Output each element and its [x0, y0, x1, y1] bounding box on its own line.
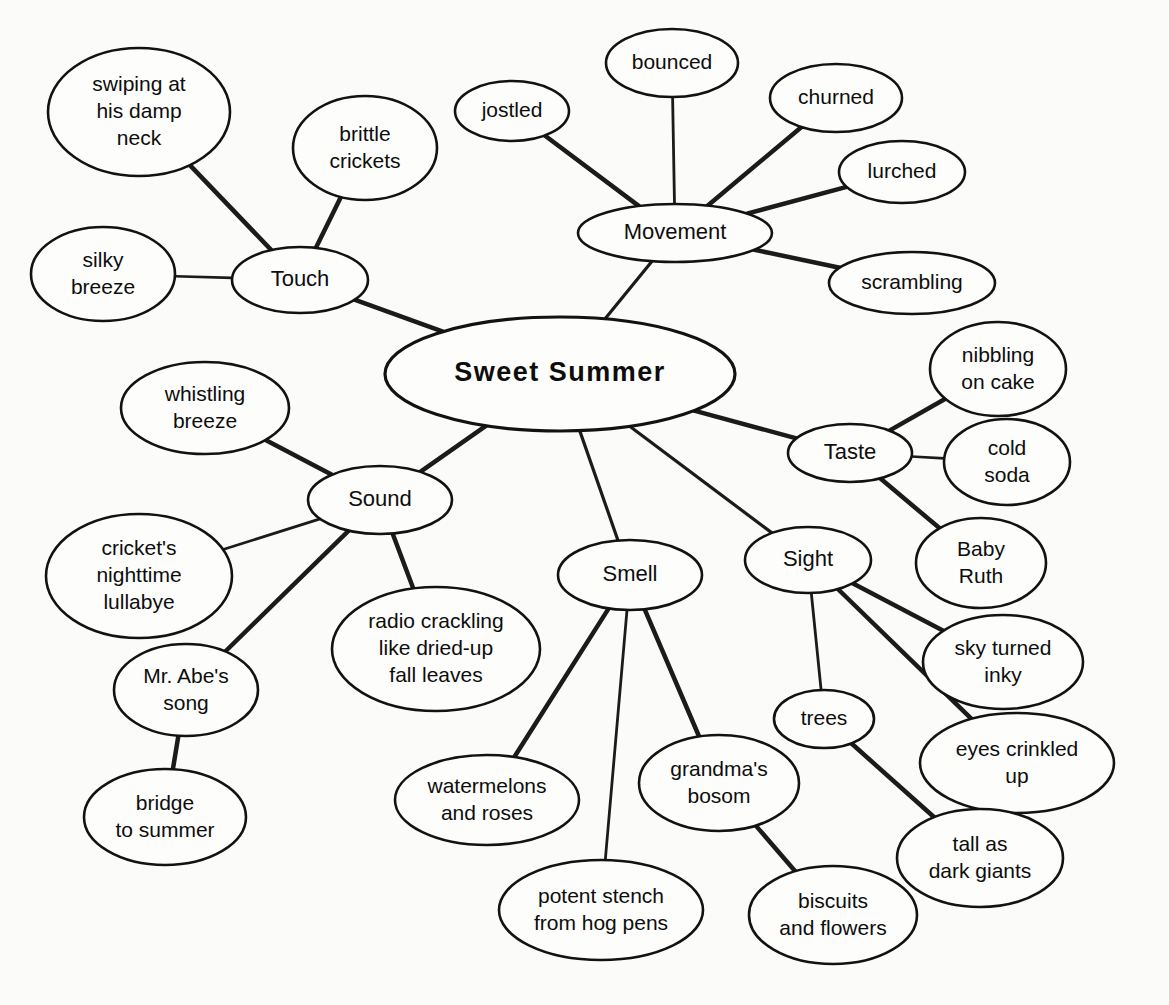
- node-label-jostled: jostled: [481, 98, 543, 121]
- node-label-line: like dried-up: [379, 636, 493, 659]
- edge-sight-to-trees: [811, 593, 821, 690]
- node-label-line: Touch: [271, 266, 330, 291]
- node-label-line: bosom: [687, 783, 750, 806]
- node-label-lurched: lurched: [868, 159, 937, 182]
- node-label-scrambling: scrambling: [861, 270, 963, 293]
- node-label-line: Taste: [824, 439, 877, 464]
- node-lurched[interactable]: lurched: [839, 141, 965, 203]
- edge-smell-to-grandmas: [645, 609, 699, 736]
- node-label-line: up: [1005, 763, 1028, 786]
- node-potentstench[interactable]: potent stenchfrom hog pens: [499, 860, 703, 960]
- node-sight[interactable]: Sight: [745, 527, 871, 593]
- node-scrambling[interactable]: scrambling: [829, 252, 995, 314]
- node-brittle[interactable]: brittlecrickets: [293, 96, 437, 200]
- node-taste[interactable]: Taste: [788, 424, 912, 482]
- node-label-trees: trees: [801, 706, 848, 729]
- node-label-line: sky turned: [955, 635, 1052, 658]
- node-skyturned[interactable]: sky turnedinky: [923, 615, 1083, 709]
- node-churned[interactable]: churned: [770, 64, 902, 132]
- node-label-line: inky: [984, 662, 1022, 685]
- node-label-line: neck: [117, 126, 162, 149]
- node-label-line: radio crackling: [368, 609, 503, 632]
- node-label-smell: Smell: [602, 561, 657, 586]
- node-label-line: Movement: [624, 219, 727, 244]
- node-label-line: bounced: [632, 50, 713, 73]
- node-nibbling[interactable]: nibblingon cake: [930, 322, 1066, 416]
- node-sound[interactable]: Sound: [308, 466, 452, 534]
- node-movement[interactable]: Movement: [578, 204, 772, 262]
- node-bounced[interactable]: bounced: [606, 29, 738, 97]
- edge-taste-to-babyruth: [880, 478, 940, 528]
- node-swiping[interactable]: swiping athis dampneck: [48, 48, 230, 176]
- node-label-line: cold: [988, 435, 1027, 458]
- node-jostled[interactable]: jostled: [455, 81, 569, 141]
- node-label-line: bridge: [136, 790, 194, 813]
- node-label-line: biscuits: [798, 888, 868, 911]
- node-label-line: breeze: [173, 408, 237, 431]
- node-label-line: crickets: [329, 148, 400, 171]
- node-label-line: on cake: [961, 369, 1035, 392]
- edge-root-to-movement: [605, 261, 652, 319]
- node-bridge[interactable]: bridgeto summer: [84, 769, 246, 865]
- node-babyruth[interactable]: BabyRuth: [916, 518, 1046, 608]
- node-radio[interactable]: radio cracklinglike dried-upfall leaves: [332, 587, 540, 711]
- mind-map-svg: Sweet SummerTouchswiping athis dampneckb…: [0, 0, 1169, 1005]
- node-silky[interactable]: silkybreeze: [31, 227, 175, 321]
- node-touch[interactable]: Touch: [232, 247, 368, 313]
- node-label-line: swiping at: [92, 72, 186, 95]
- node-coldsoda[interactable]: coldsoda: [944, 419, 1070, 505]
- node-root[interactable]: Sweet Summer: [385, 317, 735, 431]
- edge-grandmas-to-biscuits: [756, 826, 795, 872]
- node-label-sight: Sight: [783, 546, 833, 571]
- node-label-line: Mr. Abe's: [143, 663, 229, 686]
- node-label-line: brittle: [339, 121, 390, 144]
- node-label-line: song: [163, 690, 209, 713]
- mind-map-canvas: Sweet SummerTouchswiping athis dampneckb…: [0, 0, 1169, 1005]
- node-label-line: from hog pens: [534, 910, 668, 933]
- node-eyescrinkled[interactable]: eyes crinkledup: [920, 713, 1114, 813]
- node-label-line: tall as: [953, 831, 1008, 854]
- node-label-line: cricket's: [101, 536, 176, 559]
- edge-taste-to-coldsoda: [912, 457, 945, 459]
- node-tallgiants[interactable]: tall asdark giants: [897, 809, 1063, 907]
- edge-touch-to-swiping: [190, 165, 271, 250]
- node-grandmas[interactable]: grandma'sbosom: [639, 735, 799, 831]
- node-label-line: whistling: [164, 381, 246, 404]
- node-watermelons[interactable]: watermelonsand roses: [395, 755, 579, 845]
- node-label-line: his damp: [96, 99, 181, 122]
- node-label-line: and roses: [441, 800, 533, 823]
- edge-taste-to-nibbling: [889, 399, 945, 431]
- node-label-line: breeze: [71, 274, 135, 297]
- edge-movement-to-bounced: [673, 97, 675, 204]
- node-label-line: Sound: [348, 486, 412, 511]
- node-label-line: nibbling: [962, 342, 1034, 365]
- edge-sound-to-radio: [393, 534, 414, 589]
- node-label-line: churned: [798, 85, 874, 108]
- node-smell[interactable]: Smell: [558, 540, 702, 610]
- node-trees[interactable]: trees: [774, 690, 874, 748]
- edge-root-to-smell: [580, 431, 618, 541]
- node-label-line: eyes crinkled: [956, 736, 1079, 759]
- node-label-crickets: cricket'snighttimelullabye: [96, 536, 181, 613]
- node-crickets[interactable]: cricket'snighttimelullabye: [46, 514, 232, 638]
- node-label-line: soda: [984, 462, 1030, 485]
- node-biscuits[interactable]: biscuitsand flowers: [749, 866, 917, 964]
- edge-movement-to-scrambling: [754, 250, 839, 268]
- node-label-line: fall leaves: [389, 663, 482, 686]
- node-label-line: grandma's: [670, 756, 767, 779]
- node-label-taste: Taste: [824, 439, 877, 464]
- edge-smell-to-potentstench: [605, 610, 627, 860]
- edge-root-to-sight: [630, 426, 772, 533]
- edges-layer: [173, 97, 972, 871]
- node-label-line: lurched: [868, 159, 937, 182]
- node-label-line: jostled: [481, 98, 543, 121]
- edge-sound-to-whistling: [266, 440, 332, 475]
- node-whistling[interactable]: whistlingbreeze: [121, 362, 289, 454]
- node-label-line: Baby: [957, 536, 1005, 559]
- node-mrabe[interactable]: Mr. Abe'ssong: [114, 644, 258, 736]
- node-label-sound: Sound: [348, 486, 412, 511]
- edge-root-to-sound: [420, 426, 486, 472]
- node-label-line: Smell: [602, 561, 657, 586]
- node-label-line: lullabye: [103, 590, 174, 613]
- node-label-line: trees: [801, 706, 848, 729]
